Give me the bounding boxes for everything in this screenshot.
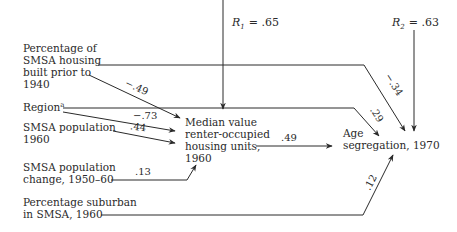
- node-age-segregation: Age segregation, 1970: [342, 127, 440, 151]
- node-pct-suburban: Percentage suburban in SMSA, 1960: [23, 196, 137, 220]
- region-label: Regiona: [23, 101, 64, 113]
- edge-arrow: [111, 165, 196, 180]
- residual-r1: R1= .65: [223, 0, 279, 109]
- node-text-line: 1960: [185, 152, 212, 164]
- node-text-line: Percentage suburban: [23, 196, 137, 208]
- node-text-line: Median value: [185, 116, 257, 128]
- node-text-line: Percentage of: [23, 42, 98, 54]
- node-text-line: in SMSA, 1960: [23, 208, 103, 220]
- coef-label: .44: [129, 120, 146, 133]
- edge-smsapop-to-median: .44: [113, 120, 175, 143]
- r1-label: R1= .65: [231, 16, 279, 31]
- node-text-line: 1940: [23, 78, 50, 90]
- node-region: Regiona: [23, 101, 64, 113]
- node-smsa-pop-change: SMSA population change, 1950–60: [23, 161, 116, 185]
- edge-popchange-to-median: .13: [111, 165, 196, 180]
- node-median-value: Median value renter-occupied housing uni…: [185, 116, 270, 164]
- node-text-line: renter-occupied: [185, 128, 270, 140]
- edge-arrow: [101, 155, 393, 215]
- coef-label: .49: [281, 132, 297, 143]
- r2-label: R2= .63: [391, 16, 439, 31]
- node-text-line: SMSA population: [23, 161, 116, 173]
- coef-label: −.34: [383, 71, 405, 97]
- node-text-line: SMSA population: [23, 121, 116, 133]
- node-text-line: change, 1950–60: [23, 173, 114, 185]
- coef-label: −.49: [123, 77, 150, 97]
- residual-r2: R2= .63: [391, 16, 439, 131]
- edge-suburban-to-age: .12: [101, 155, 393, 215]
- node-text-line: segregation, 1970: [343, 139, 440, 151]
- node-smsa-pop: SMSA population 1960: [23, 121, 116, 145]
- node-text-line: SMSA housing: [23, 54, 101, 66]
- node-text-line: housing units,: [185, 140, 260, 152]
- path-diagram: R1= .65 R2= .63 Percentage of SMSA housi…: [0, 0, 457, 232]
- node-text-line: 1960: [23, 133, 50, 145]
- coef-label: −.73: [133, 110, 157, 121]
- node-text-line: Age: [342, 127, 364, 139]
- coef-label: .13: [135, 166, 151, 177]
- node-text-line: built prior to: [23, 66, 91, 78]
- node-housing-pre1940: Percentage of SMSA housing built prior t…: [23, 42, 101, 90]
- coef-label: .29: [368, 105, 386, 124]
